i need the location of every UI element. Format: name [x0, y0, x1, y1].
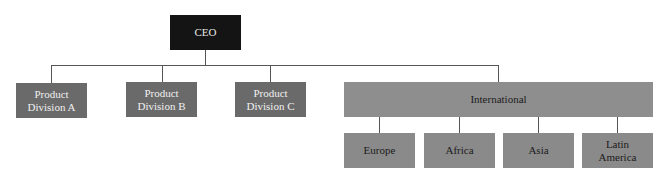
- connector-international: [498, 65, 499, 82]
- region-africa-node: Africa: [424, 133, 495, 168]
- international-node: International: [344, 82, 653, 117]
- asia-label: Asia: [528, 144, 548, 157]
- ceo-label: CEO: [195, 26, 217, 39]
- division-c-label: ProductDivision C: [247, 87, 295, 113]
- africa-label: Africa: [445, 144, 473, 157]
- division-a-label: ProductDivision A: [28, 88, 76, 114]
- region-europe-node: Europe: [344, 133, 415, 168]
- connector-asia: [538, 117, 539, 133]
- connector-main-horizontal: [51, 65, 499, 66]
- connector-latin-america: [617, 117, 618, 133]
- connector-division-b: [162, 65, 163, 82]
- latin-america-label: LatinAmerica: [599, 138, 637, 164]
- connector-division-c: [270, 65, 271, 82]
- division-b-label: ProductDivision B: [138, 87, 186, 113]
- connector-africa: [459, 117, 460, 133]
- product-division-c-node: ProductDivision C: [235, 82, 306, 117]
- product-division-b-node: ProductDivision B: [126, 82, 197, 117]
- region-latin-america-node: LatinAmerica: [582, 133, 653, 168]
- connector-ceo-down: [205, 50, 206, 65]
- region-asia-node: Asia: [503, 133, 574, 168]
- connector-europe: [379, 117, 380, 133]
- ceo-node: CEO: [170, 15, 241, 50]
- product-division-a-node: ProductDivision A: [16, 83, 87, 118]
- international-label: International: [470, 93, 526, 106]
- europe-label: Europe: [364, 144, 396, 157]
- connector-division-a: [51, 65, 52, 83]
